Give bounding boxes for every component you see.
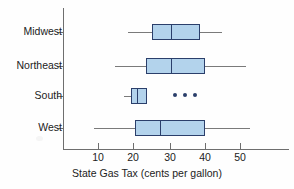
y-axis-label-west: West	[38, 122, 62, 133]
whisker-right-midwest	[200, 32, 222, 33]
x-axis-tick-label-30: 30	[155, 152, 185, 163]
x-axis-tick-50	[240, 143, 241, 149]
median-midwest	[171, 24, 172, 40]
outlier-point-south-3	[193, 93, 197, 97]
whisker-left-south	[124, 96, 131, 97]
box-midwest	[152, 24, 200, 40]
box-west	[135, 120, 205, 136]
median-northeast	[171, 58, 172, 74]
y-axis-label-south: South	[35, 90, 62, 101]
y-axis-line	[63, 8, 64, 150]
whisker-right-west	[205, 128, 250, 129]
x-axis-tick-label-40: 40	[190, 152, 220, 163]
whisker-left-northeast	[115, 66, 146, 67]
x-axis-tick-20	[133, 143, 134, 149]
x-axis-tick-40	[205, 143, 206, 149]
x-axis-tick-label-20: 20	[118, 152, 148, 163]
box-plot-chart: Midwest Northeast South West 10 20 30 40…	[0, 0, 294, 189]
x-axis-line	[63, 149, 289, 150]
x-axis-title: State Gas Tax (cents per gallon)	[0, 168, 294, 179]
x-axis-tick-label-50: 50	[225, 152, 255, 163]
box-south	[131, 88, 147, 104]
y-axis-label-midwest: Midwest	[23, 26, 62, 37]
median-west	[160, 120, 161, 136]
outlier-point-south-2	[183, 93, 187, 97]
median-south	[137, 88, 138, 104]
y-axis-label-northeast: Northeast	[16, 60, 62, 71]
whisker-right-northeast	[205, 66, 246, 67]
x-axis-tick-30	[170, 143, 171, 149]
x-axis-tick-label-10: 10	[83, 152, 113, 163]
x-axis-tick-10	[98, 143, 99, 149]
scan-artifact	[36, 136, 43, 141]
outlier-point-south-1	[173, 93, 177, 97]
whisker-left-midwest	[128, 32, 152, 33]
whisker-left-west	[94, 128, 135, 129]
box-northeast	[146, 58, 205, 74]
